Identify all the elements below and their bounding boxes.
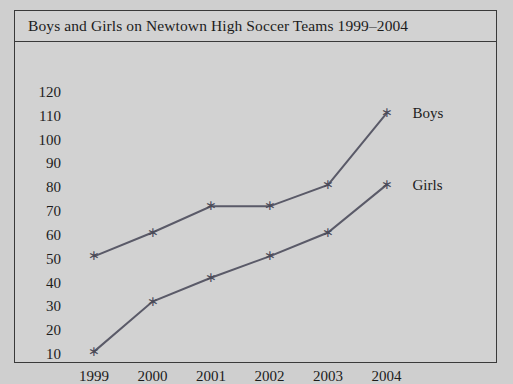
data-point-marker: ∗ <box>88 249 100 263</box>
y-axis-tick-label: 40 <box>27 276 61 291</box>
y-axis-tick-label: 20 <box>27 323 61 338</box>
data-point-marker: ∗ <box>322 226 334 240</box>
data-point-marker: ∗ <box>88 345 100 359</box>
x-axis-tick-label: 2000 <box>128 369 178 384</box>
y-axis-tick-label: 30 <box>27 299 61 314</box>
data-point-marker: ∗ <box>147 295 159 309</box>
data-point-marker: ∗ <box>147 226 159 240</box>
data-point-marker: ∗ <box>264 199 276 213</box>
x-axis-tick-label: 2002 <box>245 369 295 384</box>
data-point-marker: ∗ <box>205 199 217 213</box>
series-lines <box>15 42 498 362</box>
page-title: Boys and Girls on Newtown High Soccer Te… <box>28 17 408 35</box>
data-point-marker: ∗ <box>381 106 393 120</box>
data-point-marker: ∗ <box>205 271 217 285</box>
y-axis-tick-label: 50 <box>27 252 61 267</box>
y-axis-tick-label: 80 <box>27 180 61 195</box>
data-point-marker: ∗ <box>264 249 276 263</box>
data-point-marker: ∗ <box>381 178 393 192</box>
x-axis-tick-label: 2001 <box>186 369 236 384</box>
series-label-boys: Boys <box>413 106 444 121</box>
y-axis-tick-label: 110 <box>27 109 61 124</box>
line-boys <box>94 113 387 256</box>
y-axis-tick-label: 120 <box>27 85 61 100</box>
y-axis-tick-label: 100 <box>27 133 61 148</box>
series-label-girls: Girls <box>413 178 443 193</box>
x-axis-tick-label: 2004 <box>362 369 412 384</box>
line-girls <box>94 185 387 352</box>
plot-area: 1020304050607080901001101201999200020012… <box>15 42 496 362</box>
chart-frame: Boys and Girls on Newtown High Soccer Te… <box>14 10 497 363</box>
x-axis-tick-label: 1999 <box>69 369 119 384</box>
y-axis-tick-label: 90 <box>27 156 61 171</box>
data-point-marker: ∗ <box>322 178 334 192</box>
y-axis-tick-label: 70 <box>27 204 61 219</box>
y-axis-tick-label: 10 <box>27 347 61 362</box>
y-axis-tick-label: 60 <box>27 228 61 243</box>
chart-title-bar: Boys and Girls on Newtown High Soccer Te… <box>15 11 496 42</box>
x-axis-tick-label: 2003 <box>303 369 353 384</box>
